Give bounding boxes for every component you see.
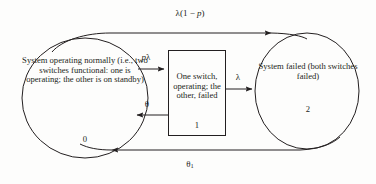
edge-state2-to-state0-tail: [80, 144, 112, 150]
state-1-rect[interactable]: [169, 51, 226, 136]
state-0-ellipse[interactable]: [22, 38, 148, 158]
state-transition-diagram: System operating normally (i.e., two swi…: [0, 0, 376, 184]
edge-state0-to-state2[interactable]: [52, 33, 271, 52]
diagram-canvas: [0, 0, 376, 184]
edge-state2-to-state0[interactable]: [112, 137, 340, 150]
state-2-ellipse[interactable]: [255, 33, 359, 149]
